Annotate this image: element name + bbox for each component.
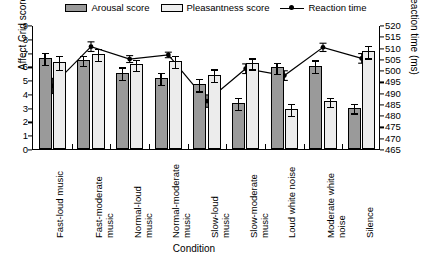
bar-group bbox=[188, 26, 227, 149]
y-axis-right-title: Reaction time (ms) bbox=[408, 0, 420, 95]
bar-group bbox=[304, 26, 343, 149]
line-marker-icon bbox=[280, 4, 304, 12]
error-bar-cap bbox=[365, 46, 372, 47]
error-bar-cap bbox=[196, 79, 203, 80]
error-bar-cap bbox=[288, 104, 295, 105]
y-axis-right-tick: 505 bbox=[385, 55, 401, 65]
x-axis-tick-labels: Fast-loud musicFast-moderate musicNormal… bbox=[32, 152, 380, 244]
error-bar-cap bbox=[172, 56, 179, 57]
error-bar bbox=[83, 56, 84, 66]
error-bar-cap bbox=[56, 70, 63, 71]
x-axis-tick-label: Fast-moderate music bbox=[94, 176, 115, 238]
y-axis-right-tick: 495 bbox=[385, 78, 401, 88]
bar-pleasantness bbox=[53, 62, 66, 149]
bar-pleasantness bbox=[362, 51, 375, 149]
bar-arousal bbox=[39, 58, 52, 149]
error-bar bbox=[368, 46, 369, 58]
bar-pleasantness bbox=[208, 75, 221, 149]
bar-arousal bbox=[77, 60, 90, 149]
error-bar-cap bbox=[95, 49, 102, 50]
error-bar-cap bbox=[42, 65, 49, 66]
error-bar-cap bbox=[133, 60, 140, 61]
error-bar bbox=[291, 104, 292, 116]
error-bar-cap bbox=[249, 58, 256, 59]
error-bar-cap bbox=[327, 98, 334, 99]
error-bar-cap bbox=[42, 53, 49, 54]
x-axis-tick-label: Normal-loud music bbox=[133, 186, 154, 238]
bar-arousal bbox=[116, 73, 129, 149]
error-bar bbox=[98, 49, 99, 61]
bar-pleasantness bbox=[130, 64, 143, 149]
bar-group bbox=[72, 26, 111, 149]
error-bar bbox=[122, 67, 123, 79]
error-bar-cap bbox=[95, 61, 102, 62]
legend-item-reaction-time: Reaction time bbox=[280, 3, 366, 13]
error-bar-cap bbox=[119, 67, 126, 68]
y-axis-right-tick: 475 bbox=[385, 123, 401, 133]
bar-pleasantness bbox=[324, 101, 337, 149]
y-axis-right-tick: 490 bbox=[385, 89, 401, 99]
error-bar bbox=[330, 98, 331, 108]
error-bar-cap bbox=[312, 73, 319, 74]
y-axis-right-tick: 520 bbox=[385, 21, 401, 31]
bar-arousal bbox=[271, 67, 284, 149]
error-bar-cap bbox=[235, 98, 242, 99]
error-bar-cap bbox=[80, 56, 87, 57]
error-bar-cap bbox=[158, 73, 165, 74]
error-bar-cap bbox=[274, 74, 281, 75]
x-axis-tick-label: Fast-loud music bbox=[55, 171, 66, 238]
x-axis-tick-label: Loud white noise bbox=[287, 167, 298, 238]
error-bar bbox=[44, 53, 45, 65]
error-bar-cap bbox=[312, 60, 319, 61]
x-axis-tick-label: Slow-loud music bbox=[210, 196, 231, 238]
legend-label-pleasantness: Pleasantness score bbox=[187, 3, 270, 13]
error-bar-cap bbox=[211, 69, 218, 70]
y-axis-right-tick: 510 bbox=[385, 44, 401, 54]
error-bar-cap bbox=[56, 56, 63, 57]
error-bar-cap bbox=[196, 91, 203, 92]
bar-group bbox=[110, 26, 149, 149]
y-axis-right-tick: 480 bbox=[385, 111, 401, 121]
y-axis-left-title: Affect Grid score bbox=[17, 0, 29, 95]
plot-area bbox=[32, 26, 380, 150]
bar-pleasantness bbox=[246, 63, 259, 149]
x-axis-title-text: Condition bbox=[173, 243, 215, 254]
chart-legend: Arousal score Pleasantness score Reactio… bbox=[0, 1, 432, 15]
affect-grid-reaction-time-chart: Arousal score Pleasantness score Reactio… bbox=[0, 0, 432, 262]
error-bar-cap bbox=[274, 63, 281, 64]
bar-arousal bbox=[155, 78, 168, 149]
error-bar-cap bbox=[351, 104, 358, 105]
y-axis-right-tick: 500 bbox=[385, 66, 401, 76]
error-bar-cap bbox=[133, 71, 140, 72]
x-axis-tick-label: Silence bbox=[365, 207, 376, 238]
error-bar-cap bbox=[211, 82, 218, 83]
bar-group bbox=[342, 26, 381, 149]
error-bar-cap bbox=[365, 58, 372, 59]
error-bar bbox=[238, 98, 239, 110]
y-axis-right-tick: 465 bbox=[385, 145, 401, 155]
y-axis-right-tick: 485 bbox=[385, 100, 401, 110]
bar-group bbox=[33, 26, 72, 149]
arousal-swatch-icon bbox=[65, 4, 87, 12]
error-bar bbox=[315, 60, 316, 72]
y-axis-right-tick: 470 bbox=[385, 134, 401, 144]
error-bar bbox=[160, 73, 161, 85]
error-bar-cap bbox=[172, 68, 179, 69]
error-bar bbox=[252, 58, 253, 69]
legend-label-reaction-time: Reaction time bbox=[308, 3, 366, 13]
error-bar-cap bbox=[80, 66, 87, 67]
y-axis-right-tick: 515 bbox=[385, 33, 401, 43]
error-bar-cap bbox=[249, 69, 256, 70]
legend-item-arousal: Arousal score bbox=[65, 3, 149, 13]
bar-pleasantness bbox=[92, 54, 105, 149]
legend-label-arousal: Arousal score bbox=[91, 3, 149, 13]
bar-arousal bbox=[309, 66, 322, 149]
bar-group bbox=[226, 26, 265, 149]
bar-group bbox=[265, 26, 304, 149]
error-bar bbox=[276, 63, 277, 74]
error-bar bbox=[136, 60, 137, 71]
error-bar bbox=[214, 69, 215, 81]
pleasantness-swatch-icon bbox=[161, 4, 183, 12]
legend-item-pleasantness: Pleasantness score bbox=[161, 3, 270, 13]
bar-group bbox=[149, 26, 188, 149]
